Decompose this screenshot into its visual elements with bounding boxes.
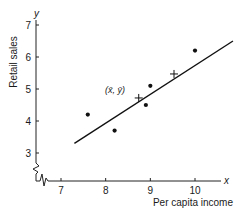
- y-tick-label: 5: [25, 84, 31, 95]
- y-tick-label: 7: [25, 20, 31, 31]
- y-axis-letter: y: [33, 8, 40, 19]
- x-axis-title: Per capita income: [153, 197, 233, 208]
- y-tick-label: 4: [25, 116, 31, 127]
- axes: 3456778910: [25, 20, 221, 197]
- x-tick-label: 7: [58, 185, 64, 196]
- data-point: [113, 129, 117, 133]
- y-tick-label: 3: [25, 148, 31, 159]
- data-point: [86, 113, 90, 117]
- x-tick-label: 8: [103, 185, 109, 196]
- y-tick-label: 6: [25, 52, 31, 63]
- x-tick-label: 10: [189, 185, 201, 196]
- y-axis-title: Retail sales: [8, 36, 19, 88]
- regression-line: [74, 41, 233, 143]
- y-axis-break-icon: [33, 163, 39, 181]
- fitted-line: [74, 41, 233, 143]
- data-point: [148, 84, 152, 88]
- mean-markers: [135, 70, 178, 102]
- mean-point-label: (x̄, ȳ): [105, 85, 125, 95]
- x-axis-letter: x: [223, 175, 230, 186]
- data-point: [193, 49, 197, 53]
- data-point: [144, 103, 148, 107]
- scatter-chart: 3456778910 Retail sales y x Per capita i…: [0, 0, 247, 213]
- data-points: [86, 49, 197, 133]
- x-tick-label: 9: [148, 185, 154, 196]
